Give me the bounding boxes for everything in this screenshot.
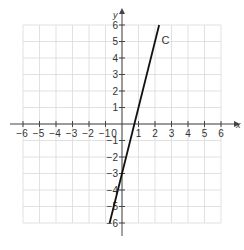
x-tick-label: −3 [66,128,78,139]
x-tick-label: 5 [202,128,208,139]
origin-label: 0 [111,128,117,139]
y-tick-label: 1 [112,102,118,113]
y-axis-arrow-icon [119,8,125,14]
x-tick-label: 6 [218,128,224,139]
x-tick-label: −6 [16,128,28,139]
x-axis-label: x [235,120,241,130]
x-tick-label: −5 [33,128,45,139]
coordinate-plane: −6−5−4−3−2−1123456−6−5−4−3−2−1123456 C x… [0,0,244,250]
x-tick-label: 3 [169,128,175,139]
y-tick-label: −6 [107,218,119,229]
x-tick-label: −2 [82,128,94,139]
y-tick-label: 6 [112,20,118,31]
y-tick-label: −3 [107,168,119,179]
y-tick-label: −2 [107,152,119,163]
x-tick-label: 4 [185,128,191,139]
x-tick-label: −4 [49,128,61,139]
axes [10,8,240,236]
x-tick-label: 2 [152,128,158,139]
y-axis-label: y [112,10,118,20]
y-tick-label: 2 [112,86,118,97]
line-label: C [162,34,170,46]
y-tick-label: 5 [112,36,118,47]
x-tick-label: 1 [136,128,142,139]
y-tick-label: 4 [112,53,118,64]
y-tick-label: 3 [112,69,118,80]
